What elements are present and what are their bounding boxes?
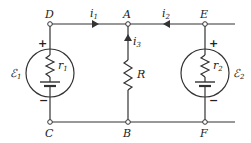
node-f — [203, 120, 208, 125]
node-label-d: D — [44, 8, 54, 21]
node-c — [48, 120, 53, 125]
current-label-i3: i3 — [133, 35, 142, 49]
node-label-e: E — [199, 8, 208, 21]
minus-sign-1: − — [39, 94, 48, 107]
minus-sign-2: − — [209, 94, 218, 107]
node-label-b: B — [122, 127, 131, 140]
node-label-c: C — [45, 127, 54, 140]
source-2 — [181, 49, 229, 97]
current-label-i2: i2 — [162, 7, 171, 21]
circuit-diagram: D A E C B F i1 i2 i3 R ℰ1 r1 ℰ2 r2 + − +… — [0, 0, 251, 143]
plus-sign-2: + — [209, 37, 218, 50]
arrow-i3-icon — [124, 34, 132, 41]
resistor-label: R — [136, 68, 145, 81]
source-1 — [26, 49, 74, 97]
resistor-r — [123, 60, 133, 90]
current-label-i1: i1 — [90, 7, 98, 21]
node-a — [126, 22, 131, 27]
plus-sign-1: + — [38, 37, 47, 50]
arrow-i1-icon — [92, 20, 99, 28]
emf-1-label: ℰ1 — [10, 67, 21, 81]
emf-2-label: ℰ2 — [233, 67, 245, 81]
node-label-a: A — [122, 8, 131, 21]
node-label-f: F — [199, 127, 208, 140]
node-e — [203, 22, 208, 27]
node-d — [48, 22, 53, 27]
arrow-i2-icon — [163, 20, 170, 28]
node-b — [126, 120, 131, 125]
